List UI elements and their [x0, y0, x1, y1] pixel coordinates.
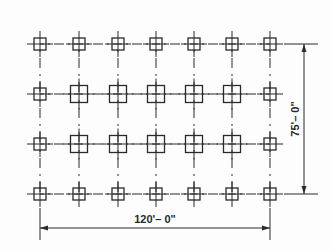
grid-centerlines — [40, 44, 270, 194]
arrowhead-left-icon — [40, 226, 48, 231]
structural-column — [257, 31, 283, 57]
arrowhead-up-icon — [302, 44, 307, 52]
structural-column — [143, 31, 169, 57]
structural-column — [105, 31, 131, 57]
structural-column — [217, 129, 248, 160]
horizontal-dimension-label: 120'– 0" — [134, 213, 175, 225]
structural-column — [143, 181, 169, 207]
structural-column — [179, 129, 210, 160]
structural-columns — [27, 31, 283, 207]
structural-column — [64, 129, 95, 160]
arrowhead-right-icon — [262, 226, 270, 231]
vertical-dimension-label: 75'– 0" — [289, 101, 301, 136]
structural-column — [219, 31, 245, 57]
arrowhead-down-icon — [302, 186, 307, 194]
structural-column — [181, 31, 207, 57]
structural-column — [217, 79, 248, 110]
structural-column — [179, 79, 210, 110]
structural-column — [103, 129, 134, 160]
structural-column — [257, 181, 283, 207]
structural-column — [27, 131, 53, 157]
structural-column — [27, 81, 53, 107]
column-grid-plan: 120'– 0" 75'– 0" — [0, 0, 331, 251]
structural-column — [27, 181, 53, 207]
structural-column — [105, 181, 131, 207]
structural-column — [257, 81, 283, 107]
structural-column — [181, 181, 207, 207]
structural-column — [219, 181, 245, 207]
structural-column — [103, 79, 134, 110]
structural-column — [257, 131, 283, 157]
structural-column — [64, 79, 95, 110]
structural-column — [66, 181, 92, 207]
structural-column — [27, 31, 53, 57]
structural-column — [141, 79, 172, 110]
structural-column — [141, 129, 172, 160]
structural-column — [66, 31, 92, 57]
column-grid-diagram: 120'– 0" 75'– 0" — [0, 0, 331, 251]
